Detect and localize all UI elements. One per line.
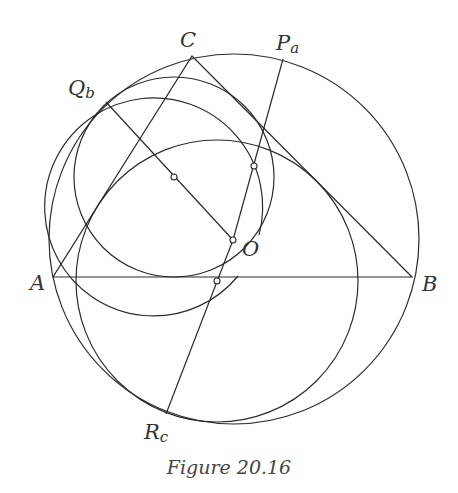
- figure-caption: Figure 20.16: [166, 456, 291, 478]
- line-Rc-O: [166, 240, 233, 414]
- label-B: B: [421, 272, 437, 296]
- triangle-ABC: [53, 56, 412, 277]
- label-A: A: [28, 271, 45, 295]
- point-O-marker: [230, 237, 236, 243]
- center-marker-Pa: [251, 163, 257, 169]
- line-Qb-O: [106, 102, 233, 240]
- center-marker-Rc: [214, 278, 220, 284]
- geometry-figure: A B C O Pa Qb Rc Figure 20.16: [0, 0, 458, 493]
- label-Rc: Rc: [143, 420, 169, 446]
- label-Pa: Pa: [275, 31, 299, 57]
- circle-tangent-at-Pa: [45, 98, 263, 316]
- line-Pa-O: [233, 59, 283, 240]
- label-O: O: [242, 237, 259, 261]
- label-C: C: [180, 28, 196, 52]
- label-Qb: Qb: [68, 76, 95, 102]
- center-marker-Qb: [171, 174, 177, 180]
